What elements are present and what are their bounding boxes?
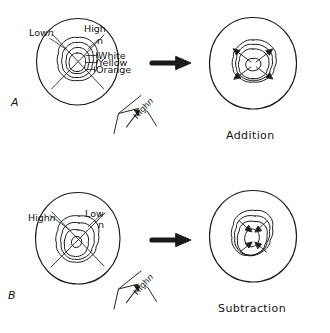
panel-b-high-symbol: n — [50, 212, 56, 223]
subtraction-caption: Subtraction — [218, 303, 286, 314]
panel-b-letter: B — [8, 290, 16, 301]
panel-b-low-symbol: n — [98, 220, 104, 230]
panel-a-color-leaders — [86, 53, 97, 72]
panel-a-result-circle — [210, 18, 297, 110]
panel-a-high-text: High — [84, 24, 106, 34]
panel-a-high-symbol: n — [97, 36, 103, 46]
fringe-pattern-diagram — [0, 0, 330, 333]
addition-caption: Addition — [226, 130, 275, 141]
panel-a-result-contours — [232, 40, 276, 83]
panel-b-operation-arrow — [152, 234, 191, 247]
panel-a-low-text: Low — [29, 27, 48, 38]
panel-b-leader-lines — [51, 212, 105, 267]
panel-b-low-text: Low — [85, 209, 104, 219]
panel-b-result-circle — [210, 191, 297, 283]
panel-b-high-n-label: Highn — [28, 213, 56, 223]
panel-a-fringe-contours — [57, 37, 98, 81]
panel-a-fringe-orange-label: Orange — [96, 65, 131, 75]
panel-a-low-symbol: n — [48, 27, 54, 38]
panel-a-low-n-label: Lown — [29, 28, 54, 38]
panel-a-operation-arrow — [152, 57, 191, 70]
panel-b-high-text: High — [28, 212, 50, 223]
panel-a-letter: A — [11, 97, 19, 108]
panel-b-result-contours — [231, 210, 273, 256]
